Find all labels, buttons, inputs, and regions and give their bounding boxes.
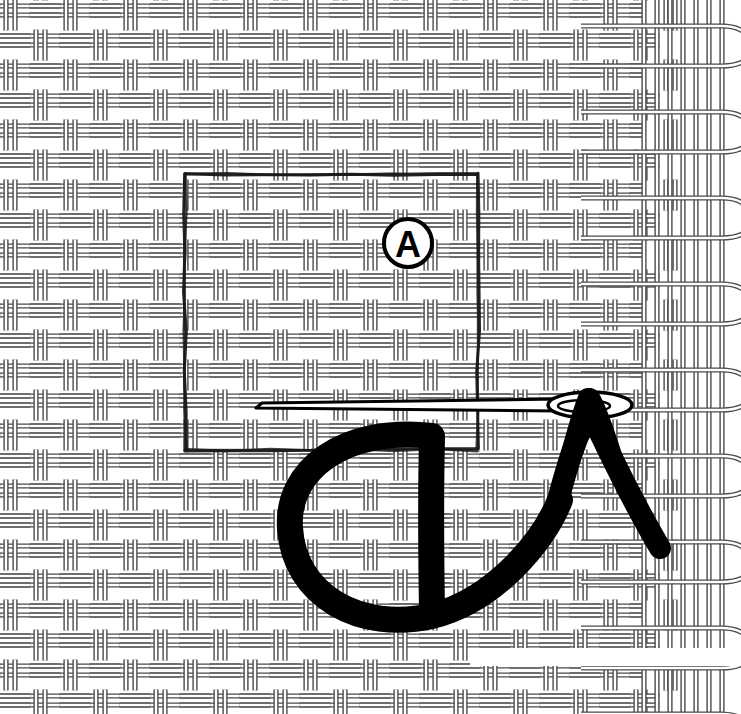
- callout-a: A: [0, 0, 741, 714]
- figure-canvas: A: [0, 0, 741, 714]
- callout-letter: A: [395, 224, 421, 265]
